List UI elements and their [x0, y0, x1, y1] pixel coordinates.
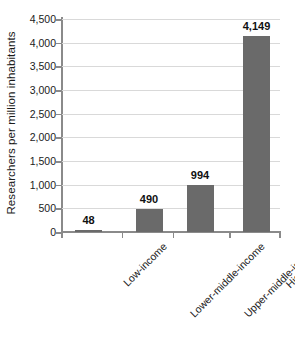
x-axis-tick-mark — [279, 232, 281, 238]
plot-area — [62, 19, 280, 232]
y-axis-tick-label: 2,500 — [30, 108, 56, 120]
x-axis-tick-mark — [122, 232, 124, 238]
y-axis-tick-label: 3,000 — [30, 84, 56, 96]
gridline — [62, 232, 280, 233]
bar-value-label: 994 — [191, 169, 209, 181]
x-axis-tick-mark — [229, 232, 231, 238]
bar — [187, 185, 214, 232]
y-axis-tick-label: 4,000 — [30, 37, 56, 49]
bar-value-label: 4,149 — [243, 20, 271, 32]
bar — [75, 230, 102, 232]
y-axis-tick-mark — [56, 19, 62, 21]
y-axis-tick-mark — [56, 66, 62, 68]
bar — [243, 36, 270, 232]
x-axis-category-label: Low-income — [121, 240, 170, 289]
y-axis-tick-label: 1,500 — [30, 155, 56, 167]
y-axis-tick-mark — [56, 185, 62, 187]
y-axis-tick-mark — [56, 114, 62, 116]
y-axis-title: Researchers per million inhabitants — [0, 0, 22, 245]
y-axis-tick-mark — [56, 137, 62, 139]
bar-value-label: 490 — [140, 193, 158, 205]
y-axis-title-text: Researchers per million inhabitants — [5, 31, 17, 214]
y-axis-tick-mark — [56, 90, 62, 92]
bar — [136, 209, 163, 232]
y-axis-tick-mark — [56, 43, 62, 45]
y-axis-tick-label: 2,000 — [30, 131, 56, 143]
y-axis-tick-mark — [56, 161, 62, 163]
y-axis-tick-label: 4,500 — [30, 13, 56, 25]
bar-value-label: 48 — [82, 214, 94, 226]
y-axis-tick-mark — [56, 208, 62, 210]
x-axis-tick-mark — [173, 232, 175, 238]
y-axis-tick-labels: 05001,0001,5002,0002,5003,0003,5004,0004… — [20, 0, 60, 245]
y-axis-tick-label: 1,000 — [30, 179, 56, 191]
x-axis-tick-mark — [61, 232, 63, 238]
y-axis-tick-label: 3,500 — [30, 60, 56, 72]
bar-chart: Researchers per million inhabitants 0500… — [0, 0, 295, 341]
y-axis-tick-label: 500 — [38, 202, 56, 214]
